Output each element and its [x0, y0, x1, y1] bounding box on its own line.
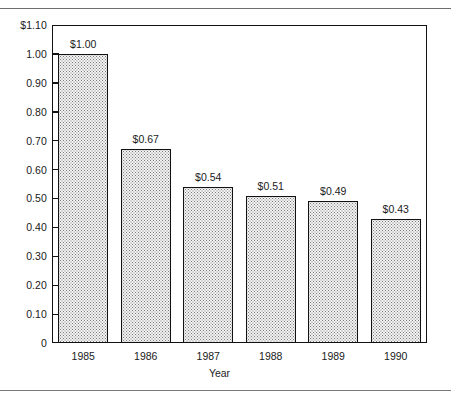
y-axis-tick-label: 0.90: [0, 78, 52, 88]
bar-value-label: $0.54: [178, 172, 238, 183]
bar: [308, 201, 358, 343]
y-axis-tick-label: 0.20: [0, 280, 52, 290]
x-axis-tick-label: 1987: [178, 351, 238, 362]
y-axis-tick-label: $1.10: [0, 20, 52, 30]
y-axis-tick-label: 0.30: [0, 251, 52, 261]
y-axis-tick-label: 0.40: [0, 222, 52, 232]
bar: [246, 196, 296, 343]
bar-value-label: $0.67: [116, 134, 176, 145]
bottom-horizontal-rule: [0, 390, 451, 391]
y-axis: $1.101.000.900.800.700.600.500.400.300.2…: [0, 0, 52, 399]
bar-value-label: $0.51: [241, 181, 301, 192]
bar-chart: $1.101.000.900.800.700.600.500.400.300.2…: [0, 0, 451, 399]
x-axis-tick-label: 1985: [53, 351, 113, 362]
bar: [121, 149, 171, 343]
bar: [58, 54, 108, 343]
y-axis-tick-label: 1.00: [0, 49, 52, 59]
x-axis-title: Year: [0, 367, 451, 379]
x-axis-tick-label: 1988: [241, 351, 301, 362]
y-axis-tick-label: 0.70: [0, 136, 52, 146]
bar-value-label: $0.49: [303, 186, 363, 197]
top-horizontal-rule: [0, 8, 451, 9]
y-axis-tick-label: 0.50: [0, 193, 52, 203]
x-axis-title-text: Year: [209, 367, 230, 379]
x-axis-tick-label: 1989: [303, 351, 363, 362]
bar: [183, 187, 233, 343]
y-axis-tick-label: 0.80: [0, 107, 52, 117]
x-axis-tick-label: 1986: [116, 351, 176, 362]
bar-value-label: $0.43: [366, 204, 426, 215]
x-axis-tick-label: 1990: [366, 351, 426, 362]
bar-value-label: $1.00: [53, 39, 113, 50]
y-axis-tick-label: 0: [0, 338, 52, 348]
bar: [371, 219, 421, 343]
y-axis-tick-label: 0.10: [0, 309, 52, 319]
y-axis-tick-label: 0.60: [0, 165, 52, 175]
